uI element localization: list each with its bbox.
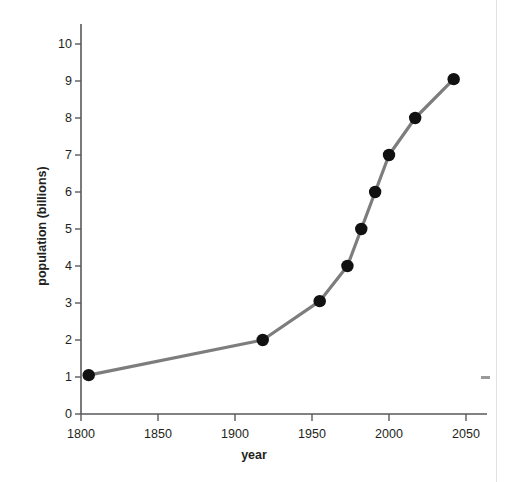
x-axis-tick-label: 1950 <box>298 427 326 441</box>
x-axis-title: year <box>241 448 267 462</box>
data-point-marker <box>383 149 395 161</box>
data-point-marker <box>409 112 421 124</box>
y-axis-tick-label: 1 <box>30 370 72 384</box>
data-point-marker <box>369 186 381 198</box>
y-axis-tick-label: 9 <box>30 74 72 88</box>
x-axis-tick-label: 2050 <box>452 427 480 441</box>
y-axis-tick-label: 0 <box>30 407 72 421</box>
x-axis-tick-label: 1850 <box>144 427 172 441</box>
data-point-marker <box>355 223 367 235</box>
y-axis-tick-label: 8 <box>30 111 72 125</box>
x-axis-tick-label: 1900 <box>221 427 249 441</box>
data-point-marker <box>447 73 459 85</box>
population-growth-chart: 012345678910 180018501900195020002050 ye… <box>0 0 508 482</box>
data-point-marker <box>341 260 353 272</box>
y-axis-tick-label: 2 <box>30 333 72 347</box>
series-line <box>89 79 454 375</box>
chart-plot-area <box>0 0 508 482</box>
x-axis-tick-label: 2000 <box>375 427 403 441</box>
data-point-marker <box>314 295 326 307</box>
data-point-marker <box>257 334 269 346</box>
y-axis-tick-label: 10 <box>30 37 72 51</box>
data-point-marker <box>83 369 95 381</box>
y-axis-title: population (billions) <box>35 146 49 306</box>
x-axis-tick-label: 1800 <box>67 427 95 441</box>
